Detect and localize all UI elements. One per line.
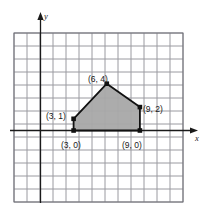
coordinate-plane-figure: y x (6, 4) (9, 2) (3, 1) (3, 0) (9, 0)	[0, 0, 211, 218]
x-axis-label: x	[194, 133, 199, 143]
vertex-marker-3-1	[71, 117, 76, 122]
pentagon-shape	[74, 84, 140, 131]
vertex-marker-9-2	[138, 105, 143, 110]
vertex-label-9-0: (9, 0)	[122, 140, 142, 150]
y-axis-arrow-icon	[37, 12, 43, 20]
vertex-label-3-1: (3, 1)	[46, 111, 66, 121]
vertex-label-6-4: (6, 4)	[88, 74, 108, 84]
y-axis-label: y	[43, 11, 48, 21]
vertex-marker-3-0	[71, 128, 76, 133]
vertex-marker-9-0	[138, 128, 143, 133]
vertex-label-3-0: (3, 0)	[61, 140, 81, 150]
vertex-label-9-2: (9, 2)	[143, 104, 163, 114]
